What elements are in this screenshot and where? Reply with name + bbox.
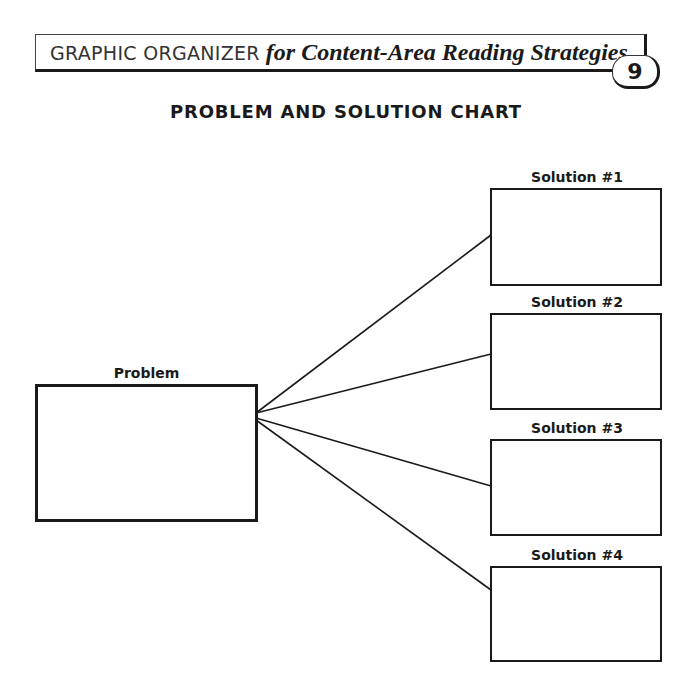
header-text: GRAPHIC ORGANIZERfor Content-Area Readin… bbox=[50, 39, 628, 66]
connector-line-3 bbox=[256, 418, 491, 486]
solution-4-label: Solution #4 bbox=[491, 547, 663, 563]
solution-4-box[interactable] bbox=[490, 566, 662, 662]
solution-2-box[interactable] bbox=[490, 313, 662, 410]
page-title: PROBLEM AND SOLUTION CHART bbox=[0, 101, 692, 122]
problem-box[interactable] bbox=[35, 384, 258, 522]
header-italic-subtitle: for Content-Area Reading Strategies bbox=[266, 39, 628, 65]
connector-line-1 bbox=[256, 235, 491, 413]
header-caps-title: GRAPHIC ORGANIZER bbox=[50, 42, 260, 64]
connector-line-2 bbox=[256, 354, 491, 413]
page-number-badge: 9 bbox=[612, 55, 660, 89]
connector-line-4 bbox=[256, 420, 491, 590]
problem-label: Problem bbox=[36, 365, 257, 381]
solution-1-label: Solution #1 bbox=[491, 169, 663, 185]
solution-3-label: Solution #3 bbox=[491, 420, 663, 436]
solution-1-box[interactable] bbox=[490, 188, 662, 286]
solution-3-box[interactable] bbox=[490, 439, 662, 536]
solution-2-label: Solution #2 bbox=[491, 294, 663, 310]
header-banner: GRAPHIC ORGANIZERfor Content-Area Readin… bbox=[35, 34, 647, 72]
